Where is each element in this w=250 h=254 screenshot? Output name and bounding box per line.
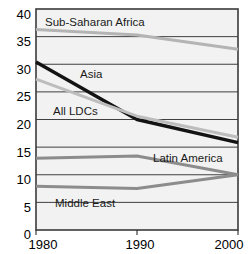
y-tick-label: 35 [17, 34, 31, 49]
x-tick-label: 2000 [215, 237, 244, 252]
y-tick-label: 40 [17, 7, 31, 22]
x-axis-tick-labels: 198019902000 [29, 237, 244, 252]
y-tick-label: 25 [17, 89, 31, 104]
x-tick-label: 1990 [126, 237, 155, 252]
line-chart: 4035302520151050 198019902000 Sub-Sahara… [0, 0, 250, 254]
y-tick-label: 30 [17, 62, 31, 77]
series-label-middle-east: Middle East [55, 197, 116, 209]
y-tick-label: 5 [24, 200, 31, 215]
y-tick-label: 20 [17, 117, 31, 132]
chart-canvas: 4035302520151050 198019902000 Sub-Sahara… [0, 0, 250, 254]
y-tick-label: 15 [17, 145, 31, 160]
series-label-asia: Asia [80, 68, 103, 80]
series-label-latin-america: Latin America [153, 152, 223, 164]
series-label-sub-saharan-africa: Sub-Saharan Africa [45, 16, 145, 28]
y-axis-tick-labels: 4035302520151050 [17, 7, 31, 242]
series-label-all-ldcs: All LDCs [53, 105, 98, 117]
x-tick-label: 1980 [29, 237, 58, 252]
y-tick-label: 10 [17, 172, 31, 187]
